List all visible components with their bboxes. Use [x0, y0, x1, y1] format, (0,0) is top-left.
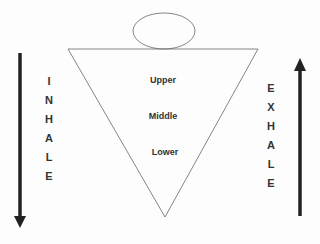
inhale-letter: N	[45, 94, 53, 106]
exhale-letter: L	[268, 158, 275, 170]
inhale-letter: H	[45, 113, 53, 125]
breathing-diagram: Upper Middle Lower I N H A L E E X H A L…	[0, 0, 320, 244]
inhale-arrowhead-icon	[14, 216, 26, 228]
exhale-letter: H	[267, 120, 275, 132]
exhale-letter: E	[267, 82, 274, 94]
exhale-letter: A	[267, 139, 275, 151]
region-middle: Middle	[149, 111, 178, 121]
diagram-svg: Upper Middle Lower I N H A L E E X H A L…	[0, 0, 320, 244]
inhale-letter: A	[45, 132, 53, 144]
exhale-letter: X	[267, 101, 275, 113]
exhale-letter: E	[267, 177, 274, 189]
region-upper: Upper	[150, 75, 177, 85]
head-ellipse	[133, 13, 195, 49]
region-lower: Lower	[152, 147, 179, 157]
inhale-letter: L	[46, 151, 53, 163]
exhale-arrowhead-icon	[294, 58, 306, 71]
inhale-letter: E	[45, 170, 52, 182]
inhale-letter: I	[47, 75, 50, 87]
